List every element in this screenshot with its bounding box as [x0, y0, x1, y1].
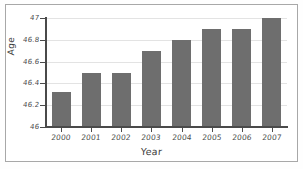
y-axis-tick [40, 83, 45, 84]
x-axis-tick [272, 128, 273, 132]
x-axis-tick-label: 2006 [232, 133, 252, 142]
bar [142, 51, 161, 127]
x-axis-tick [61, 128, 62, 132]
y-axis-tick-label: 46 [29, 123, 39, 131]
y-axis-tick-label: 47 [29, 14, 39, 22]
y-axis-tick [40, 105, 45, 106]
x-axis-tick [91, 128, 92, 132]
x-axis-line [45, 126, 288, 128]
chart-screenshot: 4646.246.446.646.847 2000200120022003200… [0, 0, 303, 169]
x-axis-tick-label: 2002 [111, 133, 131, 142]
plot-area [46, 18, 287, 127]
y-axis-tick [40, 40, 45, 41]
y-axis-tick [40, 18, 45, 19]
y-axis-tick [40, 62, 45, 63]
x-axis-title: Year [0, 146, 303, 157]
x-axis-tick [242, 128, 243, 132]
y-axis-title: Age [6, 37, 16, 56]
x-axis-tick-label: 2000 [51, 133, 71, 142]
x-axis-tick-label: 2005 [201, 133, 221, 142]
x-axis-tick-label: 2004 [171, 133, 191, 142]
bar [262, 18, 281, 127]
y-axis-tick-label: 46.6 [22, 58, 39, 66]
bar [112, 73, 131, 128]
bars-container [46, 18, 287, 127]
x-axis-tick [182, 128, 183, 132]
bar [52, 92, 71, 127]
x-axis-tick [121, 128, 122, 132]
bar [82, 73, 101, 128]
x-axis-tick [212, 128, 213, 132]
bar [232, 29, 251, 127]
x-axis-tick-label: 2001 [81, 133, 101, 142]
y-axis-tick-label: 46.8 [22, 36, 39, 44]
x-axis-tick [151, 128, 152, 132]
bar [202, 29, 221, 127]
x-axis-tick-label: 2007 [262, 133, 282, 142]
y-axis-tick-label: 46.4 [22, 79, 39, 87]
y-axis-tick [40, 127, 45, 128]
x-axis-tick-label: 2003 [141, 133, 161, 142]
y-axis-line [45, 17, 47, 128]
y-axis-tick-label: 46.2 [22, 101, 39, 109]
bar [172, 40, 191, 127]
